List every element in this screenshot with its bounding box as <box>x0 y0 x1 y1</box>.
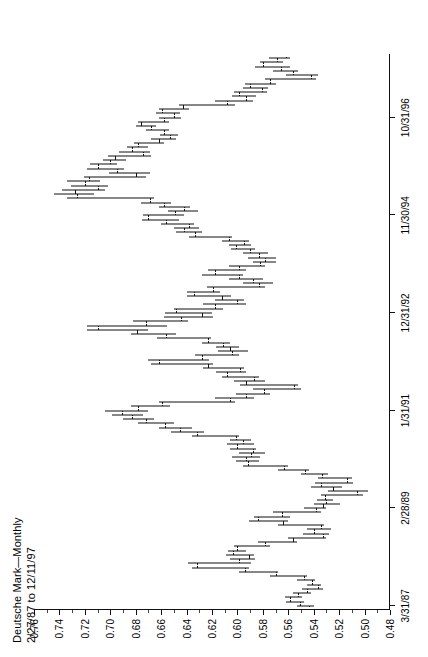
ohlc-open-tick <box>98 164 99 166</box>
ohlc-close-tick <box>184 231 185 233</box>
ohlc-close-tick <box>159 141 160 143</box>
ohlc-close-tick <box>283 523 284 525</box>
ohlc-range-line <box>236 393 270 394</box>
ohlc-bar <box>157 337 210 340</box>
ohlc-open-tick <box>281 67 282 69</box>
ohlc-close-tick <box>132 150 133 152</box>
ohlc-bar <box>176 231 201 234</box>
ohlc-open-tick <box>151 126 152 128</box>
ohlc-bar <box>171 430 204 433</box>
ohlc-bar <box>202 341 230 344</box>
ohlc-open-tick <box>276 572 277 574</box>
ohlc-close-tick <box>333 489 334 491</box>
ohlc-bar <box>234 91 267 94</box>
ohlc-close-tick <box>197 566 198 568</box>
time-tick-label: 3/31/87 <box>400 589 411 622</box>
ohlc-close-tick <box>253 451 254 453</box>
ohlc-bar <box>315 481 353 484</box>
value-tick-label: 0.68 <box>130 619 141 638</box>
ohlc-bar <box>236 392 270 395</box>
ohlc-open-tick <box>239 275 240 277</box>
ohlc-close-tick <box>181 320 182 322</box>
ohlc-bar <box>123 417 154 420</box>
ohlc-close-tick <box>138 146 139 148</box>
ohlc-open-tick <box>132 147 133 149</box>
ohlc-open-tick <box>98 186 99 188</box>
ohlc-open-tick <box>253 449 254 451</box>
ohlc-close-tick <box>259 286 260 288</box>
ohlc-open-tick <box>326 500 327 502</box>
ohlc-open-tick <box>146 321 147 323</box>
ohlc-open-tick <box>230 398 231 400</box>
ohlc-open-tick <box>237 300 238 302</box>
ohlc-close-tick <box>322 477 323 479</box>
ohlc-bar <box>232 95 256 98</box>
ohlc-open-tick <box>150 198 151 200</box>
ohlc-bar <box>230 439 252 442</box>
ohlc-bar <box>216 345 239 348</box>
ohlc-close-tick <box>239 562 240 564</box>
ohlc-close-tick <box>222 299 223 301</box>
ohlc-open-tick <box>85 181 86 183</box>
ohlc-range-line <box>286 75 318 76</box>
ohlc-open-tick <box>321 483 322 485</box>
ohlc-range-line <box>278 525 324 526</box>
ohlc-open-tick <box>333 487 334 489</box>
ohlc-close-tick <box>77 197 78 199</box>
ohlc-open-tick <box>239 559 240 561</box>
ohlc-range-line <box>123 419 154 420</box>
ohlc-range-line <box>168 211 199 212</box>
ohlc-close-tick <box>202 358 203 360</box>
ohlc-bar <box>260 61 283 64</box>
ohlc-range-line <box>288 537 326 538</box>
ohlc-close-tick <box>176 311 177 313</box>
ohlc-close-tick <box>208 366 209 368</box>
time-tick-label: 2/28/89 <box>400 491 411 524</box>
ohlc-bar <box>216 371 247 374</box>
ohlc-bar <box>293 591 310 594</box>
ohlc-open-tick <box>183 105 184 107</box>
ohlc-open-tick <box>305 470 306 472</box>
ohlc-close-tick <box>236 248 237 250</box>
ohlc-range-line <box>146 130 169 131</box>
ohlc-range-line <box>174 228 199 229</box>
ohlc-close-tick <box>254 379 255 381</box>
ohlc-close-tick <box>170 137 171 139</box>
value-tick-minor <box>225 610 226 613</box>
ohlc-bar <box>243 86 268 89</box>
ohlc-open-tick <box>202 313 203 315</box>
ohlc-bar <box>227 443 254 446</box>
ohlc-open-tick <box>174 113 175 115</box>
ohlc-range-line <box>171 431 204 432</box>
ohlc-range-line <box>108 155 151 156</box>
ohlc-range-line <box>303 533 329 534</box>
ohlc-bar <box>143 214 184 217</box>
ohlc-bar <box>286 74 318 77</box>
time-tick-label: 1/31/91 <box>400 394 411 427</box>
ohlc-close-tick <box>174 116 175 118</box>
ohlc-open-tick <box>164 118 165 120</box>
ohlc-bar <box>245 82 276 85</box>
ohlc-bar-series <box>34 54 390 610</box>
ohlc-close-tick <box>262 91 263 93</box>
ohlc-bar <box>301 473 328 476</box>
ohlc-open-tick <box>265 258 266 260</box>
ohlc-open-tick <box>138 143 139 145</box>
ohlc-open-tick <box>246 96 247 98</box>
ohlc-range-line <box>138 423 174 424</box>
time-tick <box>390 410 395 411</box>
ohlc-range-line <box>230 559 255 560</box>
ohlc-close-tick <box>233 553 234 555</box>
ohlc-close-tick <box>159 362 160 364</box>
ohlc-open-tick <box>259 283 260 285</box>
ohlc-close-tick <box>318 587 319 589</box>
ohlc-close-tick <box>314 532 315 534</box>
ohlc-open-tick <box>166 220 167 222</box>
ohlc-open-tick <box>249 555 250 557</box>
ohlc-close-tick <box>243 443 244 445</box>
ohlc-open-tick <box>318 585 319 587</box>
ohlc-range-line <box>187 291 220 292</box>
ohlc-open-tick <box>143 152 144 154</box>
ohlc-close-tick <box>150 201 151 203</box>
ohlc-open-tick <box>245 568 246 570</box>
